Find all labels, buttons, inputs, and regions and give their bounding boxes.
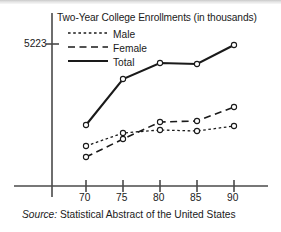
source-note-label: Source: bbox=[22, 209, 57, 220]
chart-figure: Two-Year College Enrollments (in thousan… bbox=[0, 0, 281, 232]
y-axis-tick-label-5223: 5223 bbox=[24, 38, 47, 49]
legend-label-male: Male bbox=[113, 29, 135, 40]
source-note-value: Statistical Abstract of the United State… bbox=[60, 209, 236, 220]
x-axis-tick-label-80: 80 bbox=[153, 192, 164, 203]
legend-label-total: Total bbox=[113, 57, 135, 68]
x-axis-tick-label-70: 70 bbox=[79, 192, 90, 203]
chart-title: Two-Year College Enrollments (in thousan… bbox=[57, 12, 257, 23]
legend-label-female: Female bbox=[113, 43, 147, 54]
x-axis-tick-label-90: 90 bbox=[227, 192, 238, 203]
x-axis-tick-label-75: 75 bbox=[116, 192, 127, 203]
enrollments-line-chart bbox=[0, 0, 281, 232]
source-note: Source: Statistical Abstract of the Unit… bbox=[22, 209, 236, 220]
x-axis-tick-label-85: 85 bbox=[190, 192, 201, 203]
series-line-total bbox=[86, 45, 234, 125]
series-markers-male bbox=[83, 123, 236, 148]
